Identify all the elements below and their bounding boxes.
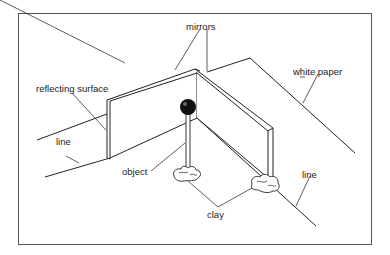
clay-mirror <box>251 174 279 192</box>
label-clay: clay <box>207 209 224 220</box>
object-ball <box>180 99 196 115</box>
label-line-right: line <box>302 169 317 180</box>
label-mirrors: mirrors <box>186 21 216 32</box>
label-reflecting-surface: reflecting surface <box>36 83 108 94</box>
label-white-paper: white paper <box>292 66 342 77</box>
figure-frame <box>19 14 372 245</box>
mirror-setup-diagram: mirrors reflecting surface white paper l… <box>0 0 390 255</box>
label-object: object <box>122 166 148 177</box>
label-line-left: line <box>56 136 71 147</box>
